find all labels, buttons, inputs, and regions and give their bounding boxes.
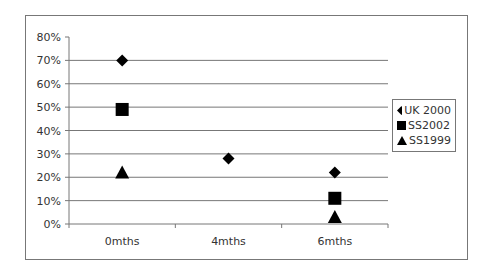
y-tick-label: 50%: [37, 101, 61, 114]
legend-label: UK 2000: [404, 103, 451, 118]
y-tick-label: 60%: [37, 78, 61, 91]
legend: UK 2000 SS2002 SS1999: [392, 99, 456, 152]
legend-item-ss2002: SS2002: [397, 118, 451, 133]
square-marker: [328, 192, 341, 205]
legend-item-uk2000: UK 2000: [397, 103, 451, 118]
diamond-icon: [397, 106, 402, 115]
y-tick-label: 30%: [37, 148, 61, 161]
triangle-marker: [115, 166, 129, 179]
x-tick-label: 6mths: [317, 235, 352, 248]
y-tick-label: 80%: [37, 31, 61, 44]
legend-label: SS2002: [408, 118, 450, 133]
x-tick-label: 0mths: [105, 235, 140, 248]
y-tick-label: 10%: [37, 195, 61, 208]
triangle-marker: [328, 210, 342, 223]
y-tick-label: 0%: [44, 218, 61, 231]
y-tick-label: 70%: [37, 54, 61, 67]
square-marker: [116, 103, 129, 116]
y-tick-label: 20%: [37, 171, 61, 184]
legend-label: SS1999: [409, 133, 451, 148]
y-tick-label: 40%: [37, 125, 61, 138]
triangle-icon: [397, 136, 407, 145]
legend-item-ss1999: SS1999: [397, 133, 451, 148]
diamond-marker: [116, 54, 128, 66]
square-icon: [397, 121, 406, 130]
x-tick-label: 4mths: [211, 235, 246, 248]
